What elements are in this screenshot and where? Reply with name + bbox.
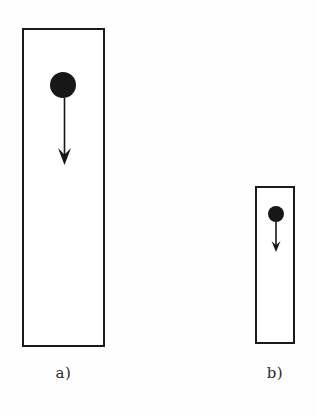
panel-b-downward-arrow-icon (266, 222, 286, 252)
panel-a-downward-arrow-icon (54, 98, 75, 165)
panel-b-falling-body-disc (268, 206, 284, 222)
figure-canvas: a) b) (0, 0, 317, 417)
panel-a-falling-body-disc (50, 72, 76, 98)
panel-b-caption: b) (245, 366, 305, 381)
panel-a-caption: a) (34, 366, 94, 381)
